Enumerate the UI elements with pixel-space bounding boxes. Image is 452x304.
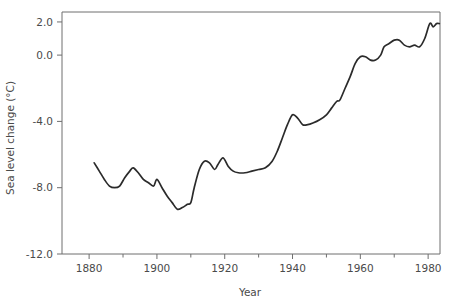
y-axis-tick-labels: 2.00.0-4.0-8.0-12.0 bbox=[26, 16, 53, 260]
x-axis-title: Year bbox=[238, 286, 262, 298]
x-axis-tick-labels: 188019001920194019601980 bbox=[76, 262, 442, 274]
data-series-line bbox=[94, 23, 439, 209]
y-tick-label: -12.0 bbox=[26, 248, 53, 260]
x-tick-label: 1920 bbox=[211, 262, 238, 274]
x-tick-label: 1940 bbox=[279, 262, 306, 274]
x-tick-label: 1980 bbox=[415, 262, 442, 274]
y-tick-label: 2.0 bbox=[36, 16, 53, 28]
x-axis-ticks bbox=[89, 254, 428, 259]
y-axis-ticks bbox=[57, 22, 62, 254]
chart-figure: 188019001920194019601980 2.00.0-4.0-8.0-… bbox=[0, 0, 452, 304]
y-tick-label: -8.0 bbox=[33, 181, 54, 193]
y-axis-title: Sea level change (°C) bbox=[4, 81, 16, 195]
y-tick-label: 0.0 bbox=[36, 49, 53, 61]
line-chart-svg: 188019001920194019601980 2.00.0-4.0-8.0-… bbox=[0, 0, 452, 304]
y-tick-label: -4.0 bbox=[33, 115, 54, 127]
x-tick-label: 1900 bbox=[144, 262, 171, 274]
x-tick-label: 1960 bbox=[347, 262, 374, 274]
x-tick-label: 1880 bbox=[76, 262, 103, 274]
